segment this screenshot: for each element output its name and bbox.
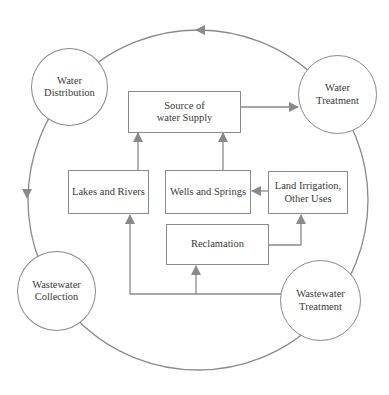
node-water-treatment: Water Treatment: [298, 55, 377, 134]
wastewater-treatment-label: Wastewater Treatment: [296, 288, 345, 313]
lakes-and-rivers-label: Lakes and Rivers: [72, 186, 145, 199]
land-irrigation-label: Land Irrigation, Other Uses: [275, 180, 341, 205]
box-source-of-water-supply: Source of water Supply: [128, 91, 241, 133]
box-wells-and-springs: Wells and Springs: [165, 170, 251, 214]
wastewater-collection-label: Wastewater Collection: [32, 279, 81, 304]
wells-and-springs-label: Wells and Springs: [170, 186, 246, 199]
arrow-reclamation-to-irrigation: [268, 215, 301, 245]
reclamation-label: Reclamation: [191, 238, 244, 251]
water-treatment-label: Water Treatment: [316, 82, 359, 107]
water-distribution-label: Water Distribution: [44, 75, 95, 100]
node-wastewater-collection: Wastewater Collection: [17, 251, 96, 331]
box-reclamation: Reclamation: [166, 224, 269, 265]
node-water-distribution: Water Distribution: [31, 48, 108, 126]
box-lakes-and-rivers: Lakes and Rivers: [68, 170, 149, 214]
node-wastewater-treatment: Wastewater Treatment: [280, 260, 361, 341]
source-of-water-supply-label: Source of water Supply: [157, 100, 213, 125]
box-land-irrigation: Land Irrigation, Other Uses: [268, 171, 348, 214]
